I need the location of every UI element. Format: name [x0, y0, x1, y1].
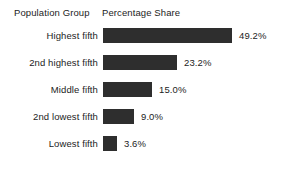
bar-zone-highest-fifth: 49.2%: [103, 27, 266, 43]
table-row: 2nd highest fifth 23.2%: [0, 53, 284, 80]
population-group-column-header: Population Group: [14, 6, 90, 19]
bar-value-2nd-lowest-fifth: 9.0%: [141, 110, 163, 123]
bar-rows: Highest fifth 49.2% 2nd highest fifth 23…: [0, 26, 284, 161]
table-row: Middle fifth 15.0%: [0, 80, 284, 107]
category-label-2nd-highest-fifth: 2nd highest fifth: [29, 56, 98, 69]
bar-chart: Population Group Percentage Share Highes…: [0, 0, 284, 172]
percentage-share-column-header: Percentage Share: [102, 6, 180, 19]
bar-value-highest-fifth: 49.2%: [239, 29, 266, 42]
bar-value-2nd-highest-fifth: 23.2%: [184, 56, 211, 69]
bar-zone-lowest-fifth: 3.6%: [103, 135, 146, 151]
bar-zone-2nd-highest-fifth: 23.2%: [103, 54, 211, 70]
bar-value-middle-fifth: 15.0%: [159, 83, 186, 96]
column-header-row: Population Group Percentage Share: [0, 6, 284, 20]
category-label-middle-fifth: Middle fifth: [51, 83, 98, 96]
table-row: Highest fifth 49.2%: [0, 26, 284, 53]
bar-highest-fifth: [103, 28, 232, 43]
table-row: 2nd lowest fifth 9.0%: [0, 107, 284, 134]
bar-zone-middle-fifth: 15.0%: [103, 81, 186, 97]
bar-value-lowest-fifth: 3.6%: [124, 137, 146, 150]
bar-2nd-lowest-fifth: [103, 109, 134, 124]
bar-zone-2nd-lowest-fifth: 9.0%: [103, 108, 163, 124]
category-label-2nd-lowest-fifth: 2nd lowest fifth: [33, 110, 98, 123]
table-row: Lowest fifth 3.6%: [0, 134, 284, 161]
bar-2nd-highest-fifth: [103, 55, 177, 70]
category-label-highest-fifth: Highest fifth: [47, 29, 98, 42]
bar-lowest-fifth: [103, 136, 117, 151]
bar-middle-fifth: [103, 82, 152, 97]
category-label-lowest-fifth: Lowest fifth: [49, 137, 98, 150]
